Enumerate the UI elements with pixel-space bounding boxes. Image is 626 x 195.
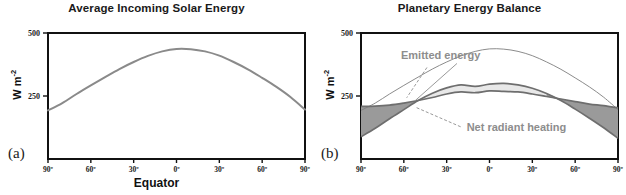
net-radiant-heating-annotation: Net radiant heating bbox=[467, 121, 567, 133]
x-tick-label: 30º bbox=[442, 165, 453, 174]
plot-frame bbox=[361, 33, 618, 159]
panel-b-y-axis-label: W m-2 bbox=[322, 63, 336, 107]
y-tick-label: 500 bbox=[28, 29, 40, 38]
x-tick-label: 90º bbox=[300, 165, 311, 174]
x-tick-label: 90º bbox=[43, 165, 54, 174]
panel-b-y-axis-label-exponent: -2 bbox=[322, 70, 331, 77]
panel-a-y-axis-label-exponent: -2 bbox=[9, 70, 18, 77]
panel-b: Planetary Energy Balance W m-2 (b) 90º60… bbox=[313, 0, 626, 195]
x-tick-label: 60º bbox=[257, 165, 268, 174]
emitted-energy-annotation: Emitted energy bbox=[401, 49, 481, 61]
panel-b-title: Planetary Energy Balance bbox=[313, 2, 626, 14]
panel-a-letter: (a) bbox=[8, 145, 25, 162]
x-tick-label: 0º bbox=[486, 165, 493, 174]
net-radiant-heating-surplus-region bbox=[418, 83, 561, 100]
y-tick-label: 500 bbox=[341, 29, 353, 38]
incoming-solar-reference-curve bbox=[361, 49, 618, 111]
solar-energy-curve bbox=[48, 49, 305, 111]
figure-container: Average Incoming Solar Energy W m-2 (a) … bbox=[0, 0, 626, 195]
net-radiant-heating-leader-line bbox=[415, 107, 460, 127]
panel-a: Average Incoming Solar Energy W m-2 (a) … bbox=[0, 0, 313, 195]
panel-a-y-axis-label-main: W m bbox=[11, 77, 23, 100]
panel-a-y-axis-label: W m-2 bbox=[9, 63, 23, 107]
x-tick-label: 60º bbox=[86, 165, 97, 174]
y-tick-label: 250 bbox=[341, 92, 353, 101]
x-tick-label: 60º bbox=[399, 165, 410, 174]
panel-b-y-axis-label-main: W m bbox=[324, 77, 336, 100]
y-tick-label: 250 bbox=[28, 92, 40, 101]
panel-a-plot: 90º60º30º0º30º60º90º250500 bbox=[0, 0, 313, 195]
x-tick-label: 90º bbox=[613, 165, 624, 174]
x-tick-label: 0º bbox=[173, 165, 180, 174]
panel-a-equator-label: Equator bbox=[0, 176, 313, 190]
panel-b-letter: (b) bbox=[321, 145, 339, 162]
x-tick-label: 30º bbox=[527, 165, 538, 174]
panel-a-title: Average Incoming Solar Energy bbox=[0, 2, 313, 14]
panel-b-plot: 90º60º30º0º30º60º90º250500Emitted energy… bbox=[313, 0, 626, 195]
x-tick-label: 90º bbox=[356, 165, 367, 174]
x-tick-label: 30º bbox=[214, 165, 225, 174]
x-tick-label: 30º bbox=[129, 165, 140, 174]
x-tick-label: 60º bbox=[570, 165, 581, 174]
plot-frame bbox=[48, 33, 305, 159]
